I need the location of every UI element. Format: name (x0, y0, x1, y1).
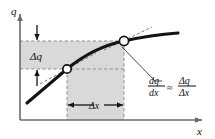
upper-point-marker (119, 36, 128, 45)
formula-left-numerator: dq (149, 75, 159, 86)
figure-canvas: q x Δq Δx dq dx ≈ Δq Δx (0, 0, 215, 139)
x-axis-label: x (196, 125, 202, 137)
delta-x-label: Δx (88, 100, 100, 111)
y-axis-label: q (11, 5, 17, 17)
formula-approx-sign: ≈ (167, 82, 173, 93)
formula-right-numerator: Δq (178, 75, 190, 86)
lower-point-marker (63, 65, 71, 73)
derivative-diagram: q x Δq Δx dq dx ≈ Δq Δx (0, 0, 215, 139)
delta-q-label: Δq (29, 50, 42, 62)
formula-right-denominator: Δx (178, 87, 190, 98)
formula-left-denominator: dx (149, 87, 159, 98)
